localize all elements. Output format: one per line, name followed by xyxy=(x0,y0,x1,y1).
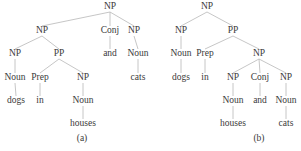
tree-edge xyxy=(40,59,59,73)
parse-tree-diagram: NPNPConjNPNPPPandNounNounPrepNPcatsdogsi… xyxy=(0,0,301,151)
tree-edge xyxy=(205,36,233,49)
tree-node-noun: Noun xyxy=(127,49,148,59)
tree-edge xyxy=(59,59,83,73)
tree-edge xyxy=(259,59,286,73)
tree-edge xyxy=(15,36,42,49)
tree-node-np: NP xyxy=(201,2,213,12)
tree-node-np: NP xyxy=(280,73,292,83)
tree-edge xyxy=(42,36,59,49)
tree-node-conj: Conj xyxy=(251,73,269,83)
tree-node-np: NP xyxy=(36,26,48,36)
tree-node-np: NP xyxy=(77,73,89,83)
tree-node-noun: Noun xyxy=(222,96,243,106)
tree-node-pp: PP xyxy=(228,26,239,36)
tree-node-cats: cats xyxy=(131,73,146,83)
tree-node-cats: cats xyxy=(279,119,294,129)
tree-node-in: in xyxy=(36,96,43,106)
tree-node-houses: houses xyxy=(70,119,96,129)
tree-edge xyxy=(233,36,259,49)
tree-node-np: NP xyxy=(227,73,239,83)
tree-node-prep: Prep xyxy=(196,49,213,59)
tree-node-np: NP xyxy=(175,26,187,36)
tree-node-and: and xyxy=(253,96,267,106)
tree-node-houses: houses xyxy=(220,119,246,129)
tree-node-noun: Noun xyxy=(72,96,93,106)
tree-edge xyxy=(42,12,110,26)
tree-node-dogs: dogs xyxy=(7,96,25,106)
tree-edge xyxy=(134,36,138,49)
tree-edge xyxy=(259,59,260,73)
tree-edge xyxy=(15,83,16,96)
tree-node-np: NP xyxy=(253,49,265,59)
tree-edge xyxy=(110,12,134,26)
tree-node-noun: Noun xyxy=(275,96,296,106)
tree-node-np: NP xyxy=(9,49,21,59)
tree-node-conj: Conj xyxy=(101,26,119,36)
tree-node-np: NP xyxy=(128,26,140,36)
tree-node-pp: PP xyxy=(54,49,65,59)
tree-node-in: in xyxy=(201,73,208,83)
tree-node-noun: Noun xyxy=(170,49,191,59)
tree-node-dogs: dogs xyxy=(172,73,190,83)
tree-edge xyxy=(181,12,207,26)
tree-edge xyxy=(207,12,233,26)
tree-node-noun: Noun xyxy=(4,73,25,83)
tree-caption: (a) xyxy=(77,134,88,144)
tree-node-prep: Prep xyxy=(31,73,48,83)
tree-caption: (b) xyxy=(253,134,264,144)
tree-node-and: and xyxy=(103,49,117,59)
tree-node-np: NP xyxy=(104,2,116,12)
tree-edge xyxy=(233,59,259,73)
